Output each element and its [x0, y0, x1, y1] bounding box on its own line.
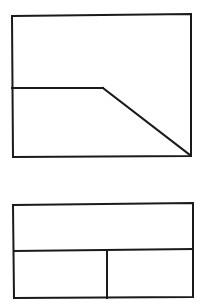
top-view: [13, 203, 193, 298]
diagram-canvas: [0, 0, 201, 305]
front-view: [12, 14, 191, 157]
front-view-chamfer-edge: [103, 88, 190, 155]
projection-drawing: [0, 0, 201, 305]
top-view-horizontal-divider: [14, 249, 193, 251]
